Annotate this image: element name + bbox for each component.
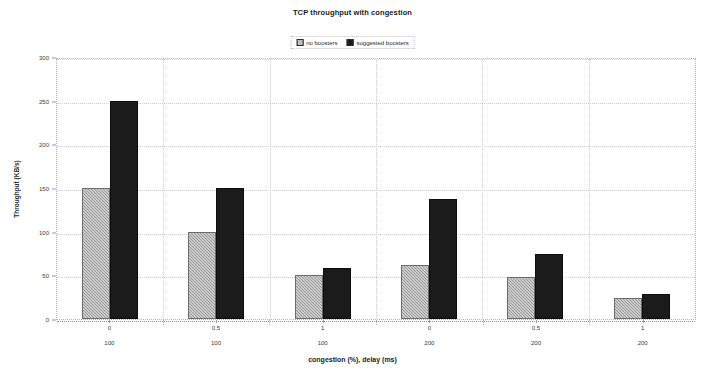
bar-0-series-a — [401, 265, 429, 319]
x-label-delay-1: 100 — [163, 340, 270, 346]
x-separator-mark-3 — [376, 320, 377, 325]
x-label-congestion-4: 0.5 — [483, 325, 590, 331]
y-axis-title: Throughput (KB/s) — [13, 160, 20, 217]
chart-legend: no boosters suggested boosters — [290, 36, 415, 49]
tcp-throughput-bar-chart: TCP throughput with congestion no booste… — [0, 0, 705, 380]
x-tick-mark-0 — [109, 320, 110, 323]
bar-group-3 — [376, 59, 482, 319]
bar-group-4 — [482, 59, 588, 319]
bar-0.5-series-b — [216, 188, 244, 319]
x-label-delay-2: 100 — [269, 340, 376, 346]
bar-1-series-b — [642, 294, 670, 319]
x-group-2: 1100 — [269, 320, 376, 360]
y-tick-label-100: 100 — [39, 230, 49, 236]
x-group-0: 0100 — [56, 320, 163, 360]
bar-0-series-b — [429, 199, 457, 319]
y-tick-label-250: 250 — [39, 99, 49, 105]
x-group-5: 1200 — [589, 320, 696, 360]
y-tick-label-150: 150 — [39, 186, 49, 192]
x-label-congestion-5: 1 — [589, 325, 696, 331]
bar-1-series-a — [295, 275, 323, 319]
bar-group-2 — [270, 59, 376, 319]
legend-label-series-b: suggested boosters — [356, 40, 408, 46]
legend-label-series-a: no boosters — [306, 40, 337, 46]
legend-item-suggested-boosters: suggested boosters — [346, 39, 408, 46]
x-label-delay-3: 200 — [376, 340, 483, 346]
x-separator-mark-1 — [163, 320, 164, 325]
x-label-congestion-3: 0 — [376, 325, 483, 331]
x-group-4: 0.5200 — [483, 320, 590, 360]
x-tick-mark-4 — [536, 320, 537, 323]
x-tick-mark-1 — [216, 320, 217, 323]
bar-0.5-series-b — [535, 254, 563, 320]
bar-group-0 — [57, 59, 163, 319]
bar-0.5-series-a — [188, 232, 216, 319]
x-tick-mark-3 — [429, 320, 430, 323]
legend-swatch-solid-black-square-icon — [346, 39, 353, 46]
bar-0-series-a — [82, 188, 110, 319]
bar-0.5-series-a — [507, 277, 535, 319]
y-tick-label-0: 0 — [46, 317, 49, 323]
x-label-congestion-0: 0 — [56, 325, 163, 331]
legend-swatch-hatched-gray-square-icon — [296, 39, 303, 46]
x-tick-mark-5 — [643, 320, 644, 323]
x-separator-mark-5 — [589, 320, 590, 325]
bar-1-series-b — [323, 268, 351, 319]
bar-group-5 — [589, 59, 695, 319]
chart-title: TCP throughput with congestion — [0, 8, 705, 17]
bar-group-1 — [163, 59, 269, 319]
x-axis-title: congestion (%), delay (ms) — [0, 356, 705, 363]
x-label-delay-5: 200 — [589, 340, 696, 346]
y-tick-label-300: 300 — [39, 55, 49, 61]
y-axis: Throughput (KB/s) 050100150200250300 — [0, 58, 56, 320]
plot-area — [56, 58, 696, 320]
y-tick-label-50: 50 — [42, 273, 49, 279]
x-label-congestion-1: 0.5 — [163, 325, 270, 331]
x-tick-mark-2 — [323, 320, 324, 323]
bar-0-series-b — [110, 101, 138, 319]
x-label-delay-4: 200 — [483, 340, 590, 346]
x-axis: 01000.5100110002000.52001200 — [56, 320, 696, 360]
bars-layer — [57, 59, 695, 319]
x-label-delay-0: 100 — [56, 340, 163, 346]
x-group-3: 0200 — [376, 320, 483, 360]
x-separator-mark-4 — [483, 320, 484, 325]
y-tick-label-200: 200 — [39, 142, 49, 148]
x-separator-mark-2 — [269, 320, 270, 325]
x-group-1: 0.5100 — [163, 320, 270, 360]
x-label-congestion-2: 1 — [269, 325, 376, 331]
bar-1-series-a — [614, 298, 642, 319]
legend-item-no-boosters: no boosters — [296, 39, 337, 46]
